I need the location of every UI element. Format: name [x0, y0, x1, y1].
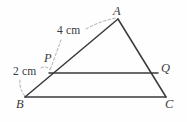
segment-ac: [118, 19, 166, 97]
triangle-diagram-canvas: [0, 0, 187, 122]
measurement-label-bp: 2 cm: [13, 66, 36, 78]
vertex-label-q: Q: [161, 62, 170, 75]
vertex-label-p: P: [44, 52, 52, 65]
leader-line-bp-to-b: [20, 80, 25, 96]
geometry-figure: A B C P Q 4 cm 2 cm: [0, 0, 187, 122]
vertex-label-a: A: [113, 5, 121, 18]
vertex-label-b: B: [16, 98, 24, 111]
vertex-label-c: C: [165, 98, 173, 111]
measurement-label-pa: 4 cm: [57, 25, 80, 37]
leader-line-bp-to-p: [41, 67, 50, 70]
